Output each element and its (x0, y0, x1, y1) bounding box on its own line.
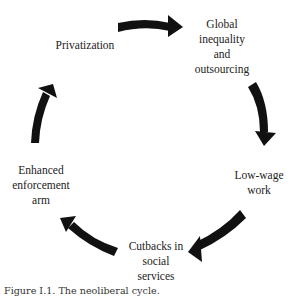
arrow-global-to-lowwage (248, 82, 276, 146)
node-low-wage-work: Low-wage work (226, 168, 292, 198)
node-privatization: Privatization (44, 38, 126, 53)
node-global-inequality: Global inequality and outsourcing (186, 17, 258, 77)
figure-caption: Figure I.1. The neoliberal cycle. (4, 285, 160, 296)
arrow-lowwage-to-cutbacks (188, 210, 246, 262)
arrow-cutbacks-to-enforcement (60, 216, 118, 256)
node-cutbacks-social-services: Cutbacks in social services (116, 239, 196, 284)
arrow-privatization-to-global (118, 15, 183, 37)
arrow-enforcement-to-privatization (31, 84, 57, 143)
neoliberal-cycle-diagram: Privatization Global inequality and outs… (0, 0, 305, 305)
node-enhanced-enforcement: Enhanced enforcement arm (4, 163, 78, 208)
